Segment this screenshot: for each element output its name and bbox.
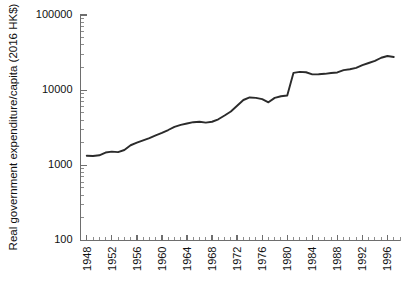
x-tick-label-1948: 1948 (81, 247, 93, 271)
y-tick-label-100: 100 (54, 233, 72, 245)
x-tick-label-1960: 1960 (156, 247, 168, 271)
x-axis-tick-labels: 1948195219561960196419681972197619801984… (81, 247, 394, 271)
line-chart: 100000100001000100 194819521956196019641… (0, 0, 408, 288)
y-axis-major-ticks (81, 15, 87, 241)
y-tick-label-1000: 1000 (48, 158, 72, 170)
x-tick-label-1956: 1956 (131, 247, 143, 271)
x-tick-label-1972: 1972 (231, 247, 243, 271)
x-tick-label-1952: 1952 (106, 247, 118, 271)
y-axis-tick-labels: 100000100001000100 (36, 8, 73, 246)
x-tick-label-1996: 1996 (381, 247, 393, 271)
x-tick-label-1964: 1964 (181, 247, 193, 271)
x-tick-label-1992: 1992 (356, 247, 368, 271)
y-axis-title: Real government expenditure/capita (2016… (7, 3, 19, 250)
x-tick-label-1988: 1988 (331, 247, 343, 271)
x-tick-label-1976: 1976 (256, 247, 268, 271)
x-tick-label-1980: 1980 (281, 247, 293, 271)
x-axis-major-ticks (87, 235, 388, 241)
y-tick-label-100000: 100000 (36, 8, 73, 20)
y-tick-label-10000: 10000 (42, 83, 73, 95)
x-tick-label-1984: 1984 (306, 247, 318, 271)
chart-container: 100000100001000100 194819521956196019641… (0, 0, 408, 288)
x-tick-label-1968: 1968 (206, 247, 218, 271)
data-series-line (87, 56, 394, 156)
